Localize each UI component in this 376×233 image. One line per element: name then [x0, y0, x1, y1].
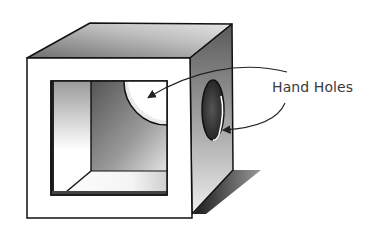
- side-wall-hand-hole: [202, 80, 224, 140]
- hand-holes-label: Hand Holes: [272, 79, 353, 95]
- box-diagram: [0, 0, 376, 233]
